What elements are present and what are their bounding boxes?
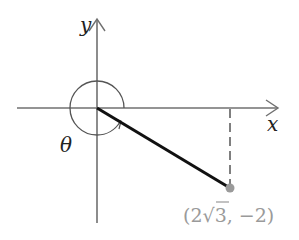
angle-diagram: y x θ (2√3, −2) bbox=[0, 0, 299, 240]
point-label: (2√3, −2) bbox=[183, 204, 274, 226]
y-axis-label: y bbox=[79, 13, 92, 37]
x-axis bbox=[17, 100, 278, 116]
point-marker bbox=[226, 184, 235, 193]
y-axis bbox=[89, 19, 105, 223]
theta-label: θ bbox=[60, 133, 72, 157]
terminal-side bbox=[97, 108, 230, 188]
x-axis-label: x bbox=[267, 112, 278, 136]
